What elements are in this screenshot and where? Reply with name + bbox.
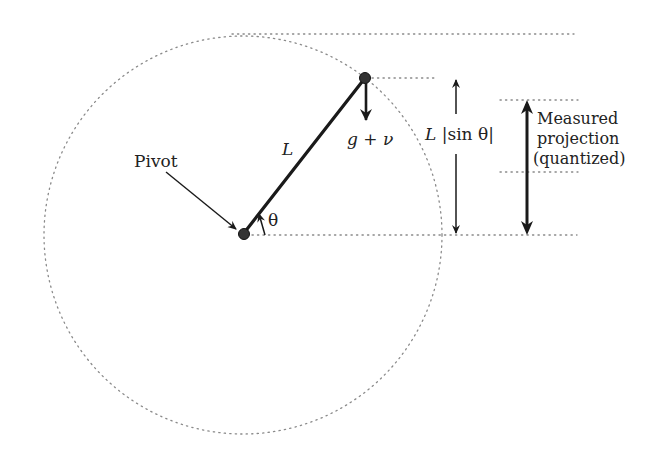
measured-label-line3: (quantized) [533,149,626,168]
pivot-label: Pivot [134,151,178,171]
pendulum-diagram: Pivot L g + ν θ L |sin θ| Measured proje… [0,0,660,458]
force-label: g + ν [347,129,393,149]
pivot-point [239,229,250,240]
angle-arrow [259,214,265,235]
pivot-pointer-arrow [166,172,236,229]
length-label: L [281,139,293,159]
pendulum-rod [244,78,365,233]
measured-label-line2: projection [537,129,619,148]
measured-label-line1: Measured [537,109,618,128]
bob [360,73,371,84]
true-projection-label: L |sin θ| [424,124,494,144]
true-projection-text: |sin θ| [436,124,494,144]
angle-label: θ [268,210,278,230]
